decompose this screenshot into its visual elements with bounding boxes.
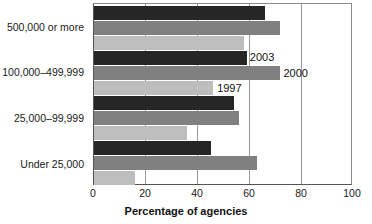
series-annotation-2000: 2000	[283, 67, 307, 79]
bar-2000-cat0	[94, 21, 280, 35]
x-tick-100: 100	[343, 187, 361, 199]
bar-1997-cat2	[94, 126, 187, 140]
series-annotation-2003: 2003	[250, 51, 274, 63]
x-tick-0: 0	[90, 187, 96, 199]
x-axis-ticks: 0 20 40 60 80 100	[0, 187, 372, 203]
x-tick-60: 60	[243, 187, 255, 199]
bars-layer	[94, 4, 351, 184]
bar-1997-cat1	[94, 81, 213, 95]
x-tick-20: 20	[139, 187, 151, 199]
bar-2003-cat3	[94, 141, 211, 155]
plot-area: 2003 2000 1997	[93, 3, 352, 185]
x-tick-40: 40	[191, 187, 203, 199]
category-label-0: 500,000 or more	[7, 21, 84, 33]
category-axis: 500,000 or more 100,000–499,999 25,000–9…	[0, 3, 88, 185]
bar-2003-cat2	[94, 96, 234, 110]
category-label-3: Under 25,000	[20, 158, 84, 170]
series-annotation-1997: 1997	[217, 82, 241, 94]
bar-2003-cat1	[94, 51, 247, 65]
bar-chart: 500,000 or more 100,000–499,999 25,000–9…	[0, 0, 372, 224]
bar-group-3	[94, 141, 351, 185]
bar-group-2	[94, 96, 351, 140]
x-axis-title: Percentage of agencies	[0, 205, 372, 217]
bar-2000-cat1	[94, 66, 280, 80]
bar-2000-cat3	[94, 156, 257, 170]
category-label-1: 100,000–499,999	[2, 66, 84, 78]
bar-2000-cat2	[94, 111, 239, 125]
category-label-2: 25,000–99,999	[14, 112, 84, 124]
bar-2003-cat0	[94, 6, 265, 20]
bar-1997-cat0	[94, 36, 244, 50]
bar-group-0	[94, 6, 351, 50]
bar-1997-cat3	[94, 171, 135, 185]
x-tick-80: 80	[295, 187, 307, 199]
